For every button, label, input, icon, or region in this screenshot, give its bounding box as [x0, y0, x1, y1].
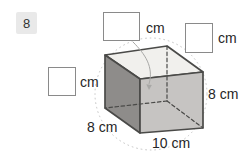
depth-dimension-label: 8 cm — [87, 120, 117, 134]
answer-box-left[interactable] — [48, 67, 76, 96]
unit-label-left: cm — [80, 75, 99, 89]
height-dimension-label: 8 cm — [208, 87, 238, 101]
unit-label-top: cm — [146, 21, 165, 35]
worksheet-question: 8 cm cm cm 8 cm 10 cm 8 cm — [0, 0, 252, 153]
unit-label-top-right: cm — [218, 31, 237, 45]
width-dimension-label: 10 cm — [152, 136, 190, 150]
answer-box-top-right[interactable] — [185, 23, 213, 53]
answer-box-top[interactable] — [103, 12, 140, 41]
